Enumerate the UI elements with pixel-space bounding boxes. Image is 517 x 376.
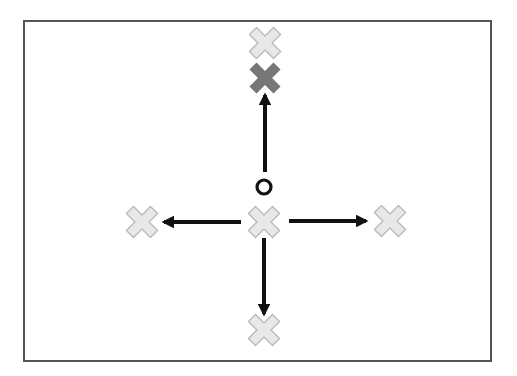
origin-circle-icon: [257, 180, 271, 194]
movement-diagram: [0, 0, 517, 376]
x-marker-top-icon: [241, 54, 289, 102]
x-marker-top-far-icon: [241, 19, 289, 67]
x-marker-left-icon: [118, 198, 166, 246]
arrows-group: [164, 95, 366, 314]
x-marker-right-icon: [366, 197, 414, 245]
diagram-canvas: [0, 0, 517, 376]
